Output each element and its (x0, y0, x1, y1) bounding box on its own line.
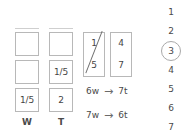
worksheet-canvas: 1/5 1/5 2 W T 1 5 4 7 6w → 7t 7w → 6t 1 … (0, 0, 185, 138)
equation-2-left: 7w (86, 111, 99, 120)
number-option-7[interactable]: 7 (162, 123, 180, 132)
grid-rule-w (15, 28, 39, 29)
fraction-box-2-denominator: 7 (111, 61, 131, 70)
number-option-5[interactable]: 5 (162, 85, 180, 94)
grid-cell-t-3[interactable]: 2 (49, 88, 73, 112)
column-label-w: W (15, 118, 39, 127)
fraction-box-1[interactable]: 1 5 (83, 32, 105, 77)
fraction-box-2-numerator: 4 (111, 39, 131, 48)
column-label-t: T (49, 118, 73, 127)
grid-cell-t-1[interactable] (49, 32, 73, 56)
grid-cell-w-1[interactable] (15, 32, 39, 56)
number-option-1[interactable]: 1 (162, 8, 180, 17)
fraction-box-1-denominator: 5 (84, 61, 104, 70)
number-option-6[interactable]: 6 (162, 104, 180, 113)
grid-cell-w-2[interactable] (15, 60, 39, 84)
fraction-box-1-numerator: 1 (84, 39, 104, 48)
equation-1-left: 6w (86, 87, 99, 96)
arrow-right-icon: → (104, 86, 113, 97)
equation-2-right: 6t (118, 111, 127, 120)
number-option-3[interactable]: 3 (162, 47, 180, 56)
equation-1-right: 7t (118, 87, 127, 96)
equation-row-2: 7w → 6t (86, 110, 128, 121)
grid-cell-w-3[interactable]: 1/5 (15, 88, 39, 112)
fraction-box-2[interactable]: 4 7 (110, 32, 132, 77)
number-option-4[interactable]: 4 (162, 66, 180, 75)
equation-row-1: 6w → 7t (86, 86, 128, 97)
grid-rule-t (49, 28, 73, 29)
arrow-right-icon: → (104, 110, 113, 121)
number-option-2[interactable]: 2 (162, 27, 180, 36)
grid-cell-t-2[interactable]: 1/5 (49, 60, 73, 84)
